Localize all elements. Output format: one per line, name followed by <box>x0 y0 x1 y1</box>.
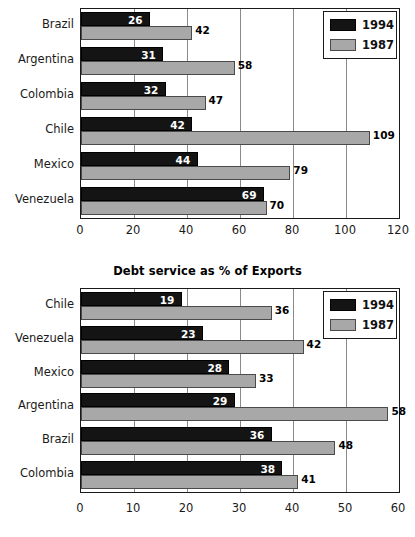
category-label: Chile <box>0 297 74 311</box>
bar-value-label: 79 <box>293 165 308 176</box>
bar-value-label: 29 <box>213 396 228 407</box>
chart-row: 3648 <box>81 424 399 458</box>
bar-1987 <box>81 374 256 388</box>
category-label: Argentina <box>0 52 74 66</box>
category-label: Mexico <box>0 365 74 379</box>
chart-row: 4479 <box>81 148 399 183</box>
xaxis-tick-label: 120 <box>378 223 415 237</box>
xaxis-tick-label: 50 <box>325 501 365 515</box>
legend-label-1987: 1987 <box>362 38 394 52</box>
bar-1987 <box>81 441 335 455</box>
legend-label-1987: 1987 <box>362 318 394 332</box>
category-label: Brazil <box>0 17 74 31</box>
legend-item-1987: 1987 <box>330 37 389 53</box>
bar-value-label: 36 <box>250 430 265 441</box>
bar-value-label: 32 <box>144 85 159 96</box>
xaxis-tick-label: 60 <box>378 501 415 515</box>
chart-top-legend: 1994 1987 <box>323 11 397 59</box>
bar-value-label: 42 <box>170 120 185 131</box>
bar-1987 <box>81 306 272 320</box>
xaxis-tick-label: 30 <box>219 501 259 515</box>
xaxis-tick-label: 60 <box>219 223 259 237</box>
legend-item-1994: 1994 <box>330 297 389 313</box>
xaxis-tick-label: 20 <box>166 501 206 515</box>
bar-value-label: 109 <box>373 130 395 141</box>
category-label: Colombia <box>0 87 74 101</box>
chart-row: 42109 <box>81 114 399 149</box>
bar-1987 <box>81 166 290 180</box>
bar-1987 <box>81 131 370 145</box>
bar-1987 <box>81 475 298 489</box>
chart-row: 2833 <box>81 357 399 391</box>
bar-value-label: 31 <box>141 50 156 61</box>
category-label: Argentina <box>0 398 74 412</box>
bar-value-label: 41 <box>301 474 316 485</box>
legend-item-1987: 1987 <box>330 317 389 333</box>
category-label: Venezuela <box>0 192 74 206</box>
bar-value-label: 23 <box>181 329 196 340</box>
legend-swatch-1987-icon <box>330 39 356 51</box>
chart-row: 2958 <box>81 391 399 425</box>
category-label: Brazil <box>0 432 74 446</box>
chart-bottom-title: Debt service as % of Exports <box>0 264 415 278</box>
bar-value-label: 38 <box>260 464 275 475</box>
xaxis-tick-label: 100 <box>325 223 365 237</box>
xaxis-tick-label: 40 <box>166 223 206 237</box>
chart-row: 3247 <box>81 79 399 114</box>
chart-top: 2642315832474210944796970 BrazilArgentin… <box>0 0 415 258</box>
bar-value-label: 58 <box>391 406 406 417</box>
category-label: Mexico <box>0 157 74 171</box>
bar-1987 <box>81 26 192 40</box>
xaxis-tick-label: 40 <box>272 501 312 515</box>
category-label: Chile <box>0 122 74 136</box>
chart-row: 3841 <box>81 458 399 492</box>
bar-value-label: 19 <box>160 295 175 306</box>
bar-value-label: 44 <box>176 155 191 166</box>
bar-value-label: 70 <box>270 200 285 211</box>
legend-swatch-1994-icon <box>330 299 356 311</box>
xaxis-tick-label: 0 <box>60 501 100 515</box>
legend-swatch-1994-icon <box>330 19 356 31</box>
bar-1987 <box>81 201 267 215</box>
chart-bottom: Debt service as % of Exports 19362342283… <box>0 258 415 537</box>
bar-value-label: 28 <box>207 363 222 374</box>
bar-1994 <box>81 393 235 407</box>
category-label: Venezuela <box>0 331 74 345</box>
bar-value-label: 47 <box>209 95 224 106</box>
bar-1994 <box>81 461 282 475</box>
bar-1987 <box>81 340 304 354</box>
legend-label-1994: 1994 <box>362 298 394 312</box>
bar-value-label: 36 <box>275 305 290 316</box>
bar-1994 <box>81 427 272 441</box>
bar-value-label: 58 <box>238 60 253 71</box>
bar-1994 <box>81 187 264 201</box>
bar-1987 <box>81 96 206 110</box>
bar-value-label: 33 <box>259 373 274 384</box>
bar-value-label: 26 <box>128 15 143 26</box>
chart-row: 6970 <box>81 183 399 218</box>
bar-value-label: 42 <box>307 339 322 350</box>
bar-value-label: 48 <box>338 440 353 451</box>
bar-1987 <box>81 407 388 421</box>
legend-label-1994: 1994 <box>362 18 394 32</box>
legend-item-1994: 1994 <box>330 17 389 33</box>
legend-swatch-1987-icon <box>330 319 356 331</box>
xaxis-tick-label: 80 <box>272 223 312 237</box>
bar-1987 <box>81 61 235 75</box>
bar-value-label: 42 <box>195 25 210 36</box>
xaxis-tick-label: 20 <box>113 223 153 237</box>
bar-value-label: 69 <box>242 190 257 201</box>
category-label: Colombia <box>0 466 74 480</box>
xaxis-tick-label: 0 <box>60 223 100 237</box>
xaxis-tick-label: 10 <box>113 501 153 515</box>
chart-bottom-legend: 1994 1987 <box>323 291 397 339</box>
